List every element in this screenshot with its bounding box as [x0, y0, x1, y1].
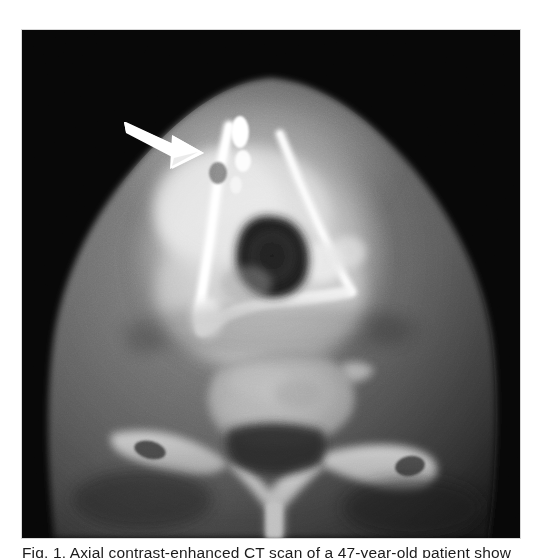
fat-plane-right — [342, 478, 482, 538]
soft-tissue-focus-left — [126, 329, 162, 355]
paraglottic-lucency — [220, 266, 272, 302]
spinal-canal — [226, 423, 325, 475]
fat-plane-left — [72, 470, 212, 530]
cartilage-lucency — [209, 162, 227, 184]
ct-scan-image — [22, 30, 520, 538]
figure-caption: Fig. 1. Axial contrast-enhanced CT scan … — [22, 543, 527, 558]
figure-root: Fig. 1. Axial contrast-enhanced CT scan … — [0, 0, 537, 558]
soft-tissue-focus-right — [368, 315, 408, 345]
ct-scan-panel — [22, 30, 520, 538]
